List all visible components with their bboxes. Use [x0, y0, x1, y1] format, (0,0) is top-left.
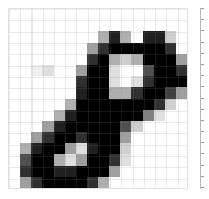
heatmap-cell: [54, 177, 65, 188]
heatmap-cell: [76, 154, 87, 165]
heatmap-cell: [20, 121, 31, 132]
heatmap-cell: [176, 143, 187, 154]
intensity-colorbar[interactable]: [200, 8, 209, 189]
heatmap-cell: [143, 99, 154, 110]
colorbar-tick: [201, 64, 204, 65]
colorbar-tick: [201, 86, 204, 87]
heatmap-cell: [98, 65, 109, 76]
heatmap-cell: [65, 99, 76, 110]
heatmap-cell: [165, 143, 176, 154]
heatmap-cell: [109, 132, 120, 143]
heatmap-cell: [176, 132, 187, 143]
heatmap-cell: [131, 87, 142, 98]
heatmap-cell: [143, 76, 154, 87]
heatmap-cell: [76, 9, 87, 20]
heatmap-cell: [143, 121, 154, 132]
digit-image-axes[interactable]: [8, 8, 188, 189]
heatmap-cell: [120, 154, 131, 165]
heatmap-cell: [31, 110, 42, 121]
heatmap-cell: [76, 20, 87, 31]
heatmap-cell: [87, 121, 98, 132]
heatmap-cell: [76, 177, 87, 188]
heatmap-cell: [54, 20, 65, 31]
heatmap-cell: [31, 99, 42, 110]
heatmap-cell: [131, 110, 142, 121]
colorbar-tick: [201, 176, 204, 177]
heatmap-cell: [154, 99, 165, 110]
heatmap-cell: [98, 110, 109, 121]
heatmap-cell: [20, 20, 31, 31]
heatmap-cell: [20, 143, 31, 154]
heatmap-cell: [87, 143, 98, 154]
heatmap-cell: [98, 132, 109, 143]
heatmap-cell: [9, 54, 20, 65]
heatmap-cell: [20, 110, 31, 121]
colorbar-tick: [201, 75, 204, 76]
heatmap-cell: [165, 20, 176, 31]
heatmap-cell: [120, 121, 131, 132]
heatmap-cell: [120, 9, 131, 20]
heatmap-cell: [9, 87, 20, 98]
heatmap-cell: [31, 87, 42, 98]
heatmap-cell: [54, 65, 65, 76]
heatmap-cell: [54, 31, 65, 42]
heatmap-cell: [42, 31, 53, 42]
heatmap-cell: [120, 110, 131, 121]
heatmap-cell: [9, 132, 20, 143]
heatmap-cell: [176, 54, 187, 65]
heatmap-cell: [54, 110, 65, 121]
heatmap-cell: [109, 99, 120, 110]
heatmap-cell: [131, 31, 142, 42]
heatmap-cell: [20, 166, 31, 177]
heatmap-cell: [20, 87, 31, 98]
colorbar-tick: [201, 187, 204, 188]
heatmap-cell: [154, 143, 165, 154]
heatmap-cell: [42, 110, 53, 121]
colorbar-tick: [201, 165, 204, 166]
heatmap-cell: [154, 110, 165, 121]
heatmap-cell: [109, 54, 120, 65]
heatmap-cell: [54, 76, 65, 87]
heatmap-cell: [176, 99, 187, 110]
heatmap-cell: [120, 143, 131, 154]
heatmap-cell: [109, 65, 120, 76]
heatmap-cell: [154, 20, 165, 31]
heatmap-cell: [98, 31, 109, 42]
heatmap-cell: [76, 143, 87, 154]
heatmap-cell: [176, 166, 187, 177]
heatmap-cell: [87, 87, 98, 98]
heatmap-cell: [54, 121, 65, 132]
heatmap-cell: [42, 143, 53, 154]
heatmap-cell: [154, 121, 165, 132]
heatmap-cell: [143, 9, 154, 20]
heatmap-cells: [9, 9, 187, 188]
heatmap-cell: [76, 121, 87, 132]
heatmap-cell: [120, 99, 131, 110]
heatmap-cell: [154, 65, 165, 76]
heatmap-cell: [176, 65, 187, 76]
heatmap-cell: [109, 143, 120, 154]
heatmap-cell: [9, 76, 20, 87]
heatmap-cell: [131, 9, 142, 20]
heatmap-cell: [87, 99, 98, 110]
heatmap-cell: [120, 20, 131, 31]
heatmap-cell: [176, 177, 187, 188]
heatmap-cell: [98, 43, 109, 54]
heatmap-cell: [109, 20, 120, 31]
heatmap-cell: [98, 121, 109, 132]
heatmap-cell: [120, 76, 131, 87]
heatmap-cell: [54, 54, 65, 65]
colorbar-tick: [201, 30, 204, 31]
figure-canvas: [0, 0, 209, 199]
heatmap-cell: [131, 143, 142, 154]
heatmap-cell: [131, 166, 142, 177]
heatmap-cell: [120, 43, 131, 54]
heatmap-cell: [76, 110, 87, 121]
heatmap-cell: [109, 76, 120, 87]
heatmap-cell: [165, 177, 176, 188]
heatmap-cell: [143, 43, 154, 54]
heatmap-cell: [165, 132, 176, 143]
heatmap-cell: [42, 177, 53, 188]
heatmap-cell: [76, 43, 87, 54]
heatmap-cell: [65, 154, 76, 165]
